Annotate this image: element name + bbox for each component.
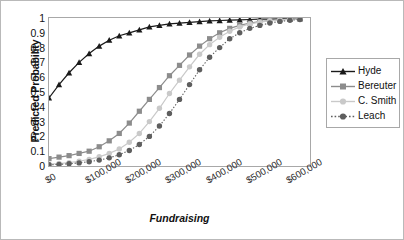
data-point-marker bbox=[157, 85, 162, 90]
series-line bbox=[49, 19, 300, 164]
data-point-marker bbox=[177, 77, 182, 82]
data-point-marker bbox=[97, 144, 102, 149]
data-point-marker bbox=[207, 55, 212, 60]
series-canvas bbox=[49, 18, 310, 166]
y-tick-label: 0.1 bbox=[21, 145, 45, 157]
data-point-marker bbox=[49, 162, 52, 166]
legend-triangle-icon bbox=[330, 64, 356, 77]
y-tick-label: 0.7 bbox=[21, 56, 45, 68]
data-point-marker bbox=[237, 24, 242, 29]
legend-item-bereuter[interactable]: Bereuter bbox=[327, 78, 399, 93]
series-hyde bbox=[49, 18, 303, 101]
data-point-marker bbox=[137, 142, 142, 147]
data-point-marker bbox=[187, 82, 192, 87]
data-point-marker bbox=[217, 35, 222, 40]
data-point-marker bbox=[117, 146, 122, 151]
data-point-marker bbox=[167, 111, 172, 116]
data-point-marker bbox=[237, 30, 242, 35]
y-tick-label: 0.6 bbox=[21, 71, 45, 83]
data-point-marker bbox=[287, 18, 292, 23]
data-point-marker bbox=[167, 91, 172, 96]
data-point-marker bbox=[117, 152, 122, 157]
legend-item-c-smith[interactable]: C. Smith bbox=[327, 93, 399, 108]
data-point-marker bbox=[106, 37, 112, 43]
y-axis-tick-labels: 00.10.20.30.40.50.60.70.80.91 bbox=[21, 1, 45, 240]
data-point-marker bbox=[187, 64, 192, 69]
data-point-marker bbox=[87, 149, 92, 154]
data-point-marker bbox=[86, 159, 91, 164]
data-point-marker bbox=[76, 160, 81, 165]
data-point-marker bbox=[217, 45, 222, 50]
data-point-marker bbox=[66, 153, 71, 158]
x-axis-title: Fundraising bbox=[48, 212, 311, 224]
data-point-marker bbox=[107, 138, 112, 143]
data-point-marker bbox=[137, 131, 142, 136]
data-point-marker bbox=[137, 109, 142, 114]
y-tick-label: 0.3 bbox=[21, 116, 45, 128]
data-point-marker bbox=[157, 123, 162, 128]
data-point-marker bbox=[96, 157, 101, 162]
y-tick-label: 0.2 bbox=[21, 130, 45, 142]
data-point-marker bbox=[187, 52, 192, 57]
legend-circle-icon bbox=[330, 109, 356, 122]
legend-label: Bereuter bbox=[358, 80, 396, 91]
legend-label: Leach bbox=[358, 110, 385, 121]
data-point-marker bbox=[247, 26, 252, 31]
data-point-marker bbox=[147, 119, 152, 124]
data-point-marker bbox=[207, 36, 212, 41]
data-point-marker bbox=[227, 29, 232, 34]
data-point-marker bbox=[177, 97, 182, 102]
series-line bbox=[49, 19, 300, 164]
legend-item-hyde[interactable]: Hyde bbox=[327, 63, 399, 78]
data-point-marker bbox=[77, 151, 82, 156]
data-point-marker bbox=[96, 43, 102, 49]
series-c-smith bbox=[49, 18, 303, 166]
data-point-marker bbox=[197, 52, 202, 57]
series-leach bbox=[49, 18, 303, 166]
series-line bbox=[49, 19, 300, 159]
data-point-marker bbox=[49, 156, 52, 161]
y-tick-label: 0.5 bbox=[21, 86, 45, 98]
data-point-marker bbox=[227, 36, 232, 41]
legend-label: C. Smith bbox=[358, 95, 396, 106]
legend-square-icon bbox=[330, 79, 356, 92]
data-point-marker bbox=[127, 140, 132, 145]
data-point-marker bbox=[107, 155, 112, 160]
y-tick-label: 0.9 bbox=[21, 27, 45, 39]
data-point-marker bbox=[277, 19, 282, 24]
y-tick-label: 0.8 bbox=[21, 42, 45, 54]
data-point-marker bbox=[56, 155, 61, 160]
data-point-marker bbox=[117, 131, 122, 136]
data-point-marker bbox=[197, 44, 202, 49]
y-tick-label: 0.4 bbox=[21, 101, 45, 113]
data-point-marker bbox=[147, 134, 152, 139]
legend-item-leach[interactable]: Leach bbox=[327, 108, 399, 123]
x-tick-label: $0 bbox=[43, 171, 58, 186]
legend-circle-icon bbox=[330, 94, 356, 107]
data-point-marker bbox=[197, 67, 202, 72]
data-point-marker bbox=[177, 63, 182, 68]
data-point-marker bbox=[207, 42, 212, 47]
data-point-marker bbox=[147, 97, 152, 102]
plot-area bbox=[48, 17, 311, 167]
data-point-marker bbox=[127, 120, 132, 125]
data-point-marker bbox=[127, 148, 132, 153]
legend-label: Hyde bbox=[358, 65, 381, 76]
chart-figure: Predicted Probability 00.10.20.30.40.50.… bbox=[0, 0, 404, 240]
y-tick-label: 1 bbox=[21, 12, 45, 24]
data-point-marker bbox=[297, 18, 302, 22]
data-point-marker bbox=[167, 73, 172, 78]
series-bereuter bbox=[49, 18, 303, 161]
data-point-marker bbox=[257, 23, 262, 28]
data-point-marker bbox=[157, 106, 162, 111]
y-tick-label: 0 bbox=[21, 160, 45, 172]
chart-legend: HydeBereuterC. SmithLeach bbox=[326, 58, 400, 128]
data-point-marker bbox=[267, 20, 272, 25]
